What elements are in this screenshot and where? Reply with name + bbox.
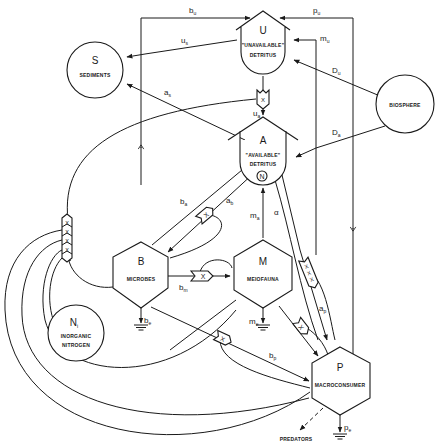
svg-text:X: X [65, 220, 69, 226]
predators-label: PREDATORS [280, 436, 313, 442]
flow-bp-line [151, 307, 309, 381]
flow-label-us: us [181, 36, 188, 46]
multiplier-icon: X [293, 317, 311, 337]
node-label: DETRITUS [250, 52, 277, 58]
node-label: MICROBES [127, 276, 156, 282]
node-symbol: P [337, 362, 344, 373]
node-label: "AVAILABLE" [246, 152, 281, 158]
node-label: DETRITUS [250, 161, 277, 167]
multiplier-icon: X [191, 271, 213, 281]
svg-text:X: X [65, 238, 69, 244]
flow-label-ap: ap [319, 304, 326, 314]
node-symbol: S [92, 55, 99, 66]
flow-predators-line [300, 408, 323, 430]
node-label: MACROCONSUMER [315, 382, 366, 388]
flow-label-bu: bu [189, 6, 196, 16]
svg-text:X: X [65, 229, 69, 235]
node-symbol: U [259, 25, 266, 36]
node-macroconsumer: P MACROCONSUMER [312, 347, 370, 415]
flow-as-line [127, 84, 245, 140]
node-biosphere: BIOSPHERE [376, 75, 434, 133]
flow-Da-line [296, 126, 385, 157]
flow-label-ma: ma [250, 211, 260, 221]
svg-text:X: X [201, 273, 206, 280]
flow-label-pu: pu [313, 6, 320, 16]
flow-label-Du: Du [332, 66, 341, 76]
flow-label-ua: ua [253, 109, 260, 119]
node-symbol: M [259, 256, 267, 267]
flow-label-ab: ab [226, 196, 233, 206]
ab-feedback-curve [170, 215, 222, 258]
node-label: BIOSPHERE [389, 102, 421, 108]
flow-label-Da: Da [332, 128, 341, 138]
flow-ba-line [152, 165, 248, 245]
svg-text:X: X [261, 97, 265, 103]
node-label: NITROGEN [62, 342, 90, 348]
ground-icon [134, 325, 148, 330]
multiplier-stack-icon: X X X X [62, 214, 72, 262]
flow-label-mu: mu [320, 34, 330, 44]
flow-label-be: be [144, 316, 151, 326]
node-unavailable-detritus: U "UNAVAILABLE" DETRITUS [236, 11, 290, 74]
bm-feedback-curve [200, 260, 232, 272]
b-to-multiplier-line [68, 256, 113, 287]
node-label: MEIOFAUNA [247, 276, 279, 282]
ground-icon [333, 434, 347, 439]
node-meiofauna: M MEIOFAUNA [234, 240, 292, 308]
node-label: INORGANIC [61, 333, 92, 339]
multiplier-icon: X [257, 90, 269, 109]
flow-label-ba: ba [180, 197, 187, 207]
node-sediments: S SEDIMENTS [67, 42, 123, 98]
node-inorganic-nitrogen: Ni INORGANIC NITROGEN [48, 305, 104, 361]
flow-label-as: as [164, 88, 171, 98]
flow-label-bm: bm [179, 283, 188, 293]
nitrogen-marker: N [259, 173, 264, 180]
flow-label-pe: pe [344, 423, 351, 433]
flow-label-alpha: α [274, 208, 279, 217]
node-available-detritus: A "AVAILABLE" DETRITUS N [228, 117, 298, 185]
ecosystem-flow-diagram: U "UNAVAILABLE" DETRITUS A "AVAILABLE" D… [0, 0, 442, 446]
node-symbol: A [260, 135, 267, 146]
node-label: SEDIMENTS [80, 72, 111, 78]
node-microbes: B MICROBES [113, 242, 168, 308]
flow-label-me: me [249, 317, 259, 327]
bp-feedback-curve [220, 340, 310, 388]
node-symbol: Ni [70, 317, 78, 329]
node-symbol: B [138, 256, 145, 267]
multiplier-icon: X [196, 205, 216, 224]
svg-text:X: X [65, 247, 69, 253]
flow-label-bp: bp [269, 351, 276, 361]
flow-mu-line [294, 40, 316, 255]
node-label: "UNAVAILABLE" [242, 42, 285, 48]
